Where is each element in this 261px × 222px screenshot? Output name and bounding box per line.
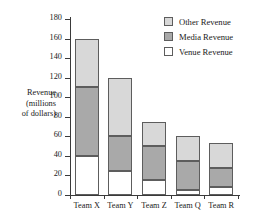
y-axis-tick-label: 60 [54,130,62,139]
x-axis-label-team-y: Team Y [104,201,138,210]
bar-team-z [142,122,166,195]
y-axis-line [70,17,71,196]
bar-segment-media-revenue [176,161,200,190]
legend-item-other-revenue: Other Revenue [164,14,260,29]
y-axis-tick: 80 [65,117,70,118]
bar-segment-other-revenue [176,136,200,160]
bar-segment-media-revenue [142,146,166,180]
y-axis-tick-label: 80 [54,111,62,120]
bar-segment-other-revenue [108,78,132,137]
y-axis-tick-label: 20 [54,169,62,178]
legend-label-other-revenue: Other Revenue [179,17,231,27]
y-axis-title-line-1: Revenue [0,88,56,99]
bar-segment-venue-revenue [142,180,166,195]
x-axis-tick [70,195,71,199]
y-axis-title-line-3: of dollars) [0,109,56,120]
bar-segment-other-revenue [142,122,166,146]
x-axis-tick [137,195,138,199]
x-axis-label-team-z: Team Z [137,201,171,210]
legend-label-media-revenue: Media Revenue [179,32,233,42]
legend-label-venue-revenue: Venue Revenue [179,47,233,57]
x-axis-label-team-x: Team X [70,201,104,210]
y-axis-tick: 20 [65,175,70,176]
x-axis-tick [204,195,205,199]
y-axis-tick: 60 [65,136,70,137]
bar-segment-venue-revenue [176,190,200,195]
bar-segment-venue-revenue [108,171,132,195]
x-axis-line [70,195,240,196]
bar-team-y [108,78,132,195]
y-axis-tick-label: 180 [50,13,62,22]
y-axis-tick-label: 140 [50,52,62,61]
y-axis-tick: 40 [65,156,70,157]
y-axis-tick: 160 [65,39,70,40]
legend: Other Revenue Media Revenue Venue Revenu… [164,14,260,59]
y-axis-tick: 120 [65,78,70,79]
x-axis-tick [104,195,105,199]
y-axis-tick-label: 120 [50,72,62,81]
stacked-bar-chart: Revenue (millions of dollars) 0204060801… [0,0,261,222]
y-axis-tick-label: 100 [50,91,62,100]
bar-team-x [75,39,99,195]
bar-segment-other-revenue [209,143,233,167]
y-axis-tick: 180 [65,19,70,20]
y-axis-title: Revenue (millions of dollars) [0,88,56,120]
x-axis-tick [238,195,239,199]
bar-segment-media-revenue [209,168,233,188]
bar-segment-venue-revenue [209,187,233,195]
y-axis-title-line-2: (millions [0,99,56,110]
legend-swatch-venue-revenue [164,47,173,56]
legend-item-venue-revenue: Venue Revenue [164,44,260,59]
bar-team-q [176,136,200,195]
legend-swatch-media-revenue [164,32,173,41]
bar-team-r [209,143,233,195]
y-axis-tick: 100 [65,97,70,98]
x-axis-tick [171,195,172,199]
bar-segment-media-revenue [75,87,99,155]
bar-segment-venue-revenue [75,156,99,195]
bar-segment-media-revenue [108,136,132,170]
y-axis-tick-label: 0 [58,189,62,198]
bar-segment-other-revenue [75,39,99,88]
y-axis-tick-label: 40 [54,150,62,159]
legend-swatch-other-revenue [164,17,173,26]
y-axis-tick: 140 [65,58,70,59]
legend-item-media-revenue: Media Revenue [164,29,260,44]
y-axis-tick-label: 160 [50,33,62,42]
x-axis-label-team-q: Team Q [171,201,205,210]
x-axis-label-team-r: Team R [204,201,238,210]
